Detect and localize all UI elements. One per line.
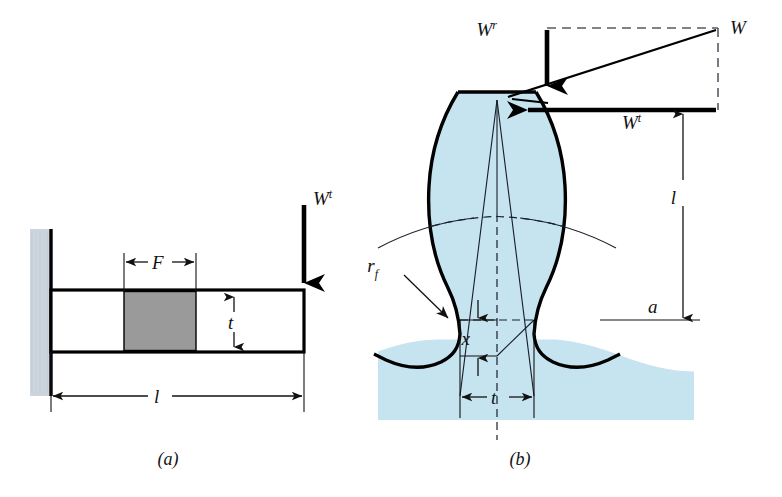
label-resultant-force: W (730, 17, 748, 38)
label-parabola-offset: x (461, 328, 471, 349)
label-radial-force: Wr (477, 18, 498, 40)
figure-root: F t Wt l (a) (0, 0, 782, 497)
label-face-width: F (151, 252, 164, 273)
gear-rim-fill (378, 340, 694, 420)
label-load-a: Wt (313, 187, 333, 209)
label-addendum: a (648, 296, 658, 317)
label-tangential-force: Wt (622, 111, 642, 133)
resultant-force-line (508, 30, 716, 97)
face-width-block (124, 292, 196, 351)
engineering-figure: F t Wt l (a) (0, 0, 782, 497)
caption-panel-b: (b) (510, 449, 531, 470)
label-fillet-radius: rf (367, 255, 379, 281)
caption-panel-a: (a) (158, 449, 179, 470)
panel-a: F t Wt l (a) (30, 187, 333, 470)
fillet-radius-leader (404, 275, 448, 318)
label-tooth-thickness-b: t (491, 387, 497, 408)
label-length-a: l (154, 386, 159, 407)
label-moment-arm-b: l (671, 187, 676, 208)
label-thickness-a: t (228, 312, 234, 333)
panel-b: Wr W Wt l a x t rf (b) (367, 17, 748, 470)
